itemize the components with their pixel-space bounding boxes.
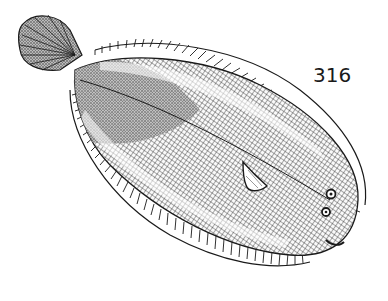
figure-number: 316 <box>313 63 351 87</box>
fish-body <box>60 57 358 255</box>
figure-canvas: 316 <box>0 0 388 301</box>
sole-fish-illustration <box>0 0 388 301</box>
caudal-fin <box>19 15 82 70</box>
